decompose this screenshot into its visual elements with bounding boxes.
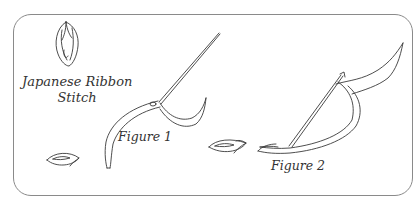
figure2-bud-icon <box>209 140 246 153</box>
figure1-bud-icon <box>47 153 79 166</box>
stitch-title-line2: Stitch <box>22 90 132 106</box>
finished-stitch-icon <box>56 22 78 66</box>
figure2-label: Figure 2 <box>271 159 325 173</box>
stitch-title: Japanese Ribbon Stitch <box>22 74 132 106</box>
stitch-title-line1: Japanese Ribbon <box>22 74 132 90</box>
figure2-ribbon-needle-icon <box>258 43 403 153</box>
figure1-label: Figure 1 <box>118 130 172 144</box>
